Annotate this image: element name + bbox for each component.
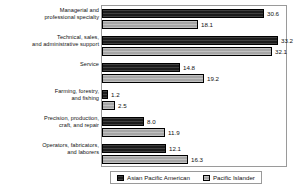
bar-value-pacific-islander: 32.1 [275, 47, 287, 56]
bar-value-pacific-islander: 19.2 [207, 74, 219, 83]
bar-value-asian-pacific-american: 1.2 [111, 90, 120, 99]
bar-asian-pacific-american[interactable] [102, 90, 108, 99]
bar-pacific-islander[interactable] [102, 20, 198, 29]
category-label-line1: Farming, forestry, [55, 88, 99, 94]
bar-group: 12.1 16.3 [102, 142, 287, 169]
bar-asian-pacific-american[interactable] [102, 36, 278, 45]
bar-group: 30.6 18.1 [102, 7, 287, 34]
legend-swatch-icon [117, 175, 124, 181]
category-label-line2: and administrative support [7, 41, 99, 48]
bar-pacific-islander[interactable] [102, 101, 115, 110]
category-row: Precision, production, craft, and repair… [0, 115, 304, 142]
bar-group: 8.0 11.9 [102, 115, 287, 142]
category-label: Precision, production, craft, and repair [7, 115, 99, 129]
bar-asian-pacific-american[interactable] [102, 117, 144, 126]
category-label: Technical, sales, and administrative sup… [7, 34, 99, 48]
category-label-line1: Service [80, 61, 99, 67]
category-row: Technical, sales, and administrative sup… [0, 34, 304, 61]
category-label-line2: professional specialty [7, 14, 99, 21]
bar-asian-pacific-american[interactable] [102, 9, 264, 18]
legend-label: Pacific Islander [213, 174, 255, 181]
bar-value-pacific-islander: 16.3 [191, 155, 203, 164]
legend-swatch-icon [203, 175, 210, 181]
bar-asian-pacific-american[interactable] [102, 144, 166, 153]
category-label: Farming, forestry, and fishing [7, 88, 99, 102]
category-label-line1: Precision, production, [44, 115, 99, 121]
bar-value-pacific-islander: 18.1 [201, 20, 213, 29]
bar-value-asian-pacific-american: 14.8 [183, 63, 195, 72]
grouped-bar-chart: Managerial and professional specialty 30… [0, 0, 304, 190]
bar-value-pacific-islander: 2.5 [118, 101, 127, 110]
category-label: Managerial and professional specialty [7, 7, 99, 21]
bar-group: 33.2 32.1 [102, 34, 287, 61]
bar-value-asian-pacific-american: 8.0 [147, 117, 156, 126]
bar-pacific-islander[interactable] [102, 155, 188, 164]
category-row: Operators, fabricators, and laborers 12.… [0, 142, 304, 169]
bar-pacific-islander[interactable] [102, 128, 165, 137]
legend-item-pacific-islander[interactable]: Pacific Islander [203, 174, 255, 181]
bar-value-asian-pacific-american: 30.6 [267, 9, 279, 18]
bar-asian-pacific-american[interactable] [102, 63, 180, 72]
legend-label: Asian Pacific American [127, 174, 190, 181]
category-row: Farming, forestry, and fishing 1.2 2.5 [0, 88, 304, 115]
bar-group: 14.8 19.2 [102, 61, 287, 88]
category-label-line1: Managerial and [60, 7, 99, 13]
category-label-line2: and laborers [7, 149, 99, 156]
category-label-line1: Technical, sales, [57, 34, 99, 40]
bar-value-asian-pacific-american: 33.2 [281, 36, 293, 45]
legend-item-asian-pacific-american[interactable]: Asian Pacific American [117, 174, 190, 181]
category-label: Service [7, 61, 99, 68]
bar-value-asian-pacific-american: 12.1 [169, 144, 181, 153]
bar-group: 1.2 2.5 [102, 88, 287, 115]
category-label-line2: and fishing [7, 95, 99, 102]
category-row: Managerial and professional specialty 30… [0, 7, 304, 34]
bar-value-pacific-islander: 11.9 [168, 128, 180, 137]
chart-legend: Asian Pacific American Pacific Islander [110, 171, 262, 184]
bar-pacific-islander[interactable] [102, 47, 272, 56]
category-row: Service 14.8 19.2 [0, 61, 304, 88]
bar-pacific-islander[interactable] [102, 74, 204, 83]
category-label-line2: craft, and repair [7, 122, 99, 129]
category-label-line1: Operators, fabricators, [42, 142, 99, 148]
category-label: Operators, fabricators, and laborers [7, 142, 99, 156]
